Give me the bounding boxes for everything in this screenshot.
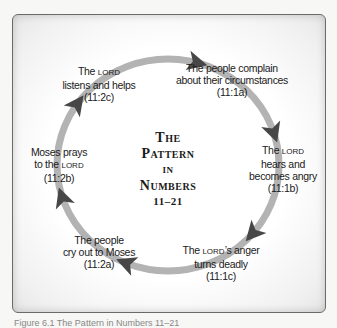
step-prefix: The [183, 244, 203, 256]
title-pattern: Pattern [142, 146, 195, 161]
step-reference: (11:2b) [31, 172, 87, 184]
step-prefix: The [262, 144, 282, 156]
step-line: turns deadly [183, 258, 260, 270]
step-line: The people complain [176, 62, 288, 74]
step-suffix: ’s anger [225, 244, 260, 256]
lord-smallcaps: Lord [202, 247, 224, 256]
step-reference: (11:2a) [63, 258, 135, 270]
step-moses-prays: Moses prays to the Lord (11:2b) [31, 146, 87, 184]
step-line: Moses prays [31, 146, 87, 158]
step-lord-anger-deadly: The Lord’s anger turns deadly (11:1c) [183, 244, 260, 282]
title-numbers: Numbers [140, 178, 196, 193]
lord-smallcaps: Lord [98, 68, 120, 77]
step-line: becomes angry [249, 170, 317, 182]
title-range: 11–21 [153, 195, 182, 207]
step-line: about their circumstances [176, 74, 288, 86]
step-people-cry-out: The people cry out to Moses (11:2a) [63, 234, 135, 270]
title-the: The [155, 130, 180, 145]
step-reference: (11:1c) [183, 270, 260, 282]
title-in: in [162, 165, 173, 175]
step-reference: (11:1b) [249, 182, 317, 194]
step-prefix: to the [34, 158, 61, 170]
step-reference: (11:2c) [62, 91, 135, 103]
step-people-complain: The people complain about their circumst… [176, 62, 288, 98]
step-lord-listens-helps: The Lord listens and helps (11:2c) [62, 65, 135, 103]
figure-caption: Figure 6.1 The Pattern in Numbers 11–21 [14, 318, 179, 328]
step-line: listens and helps [62, 79, 135, 91]
step-line: hears and [249, 158, 317, 170]
lord-smallcaps: Lord [282, 147, 304, 156]
step-line: The people [63, 234, 135, 246]
step-prefix: The [78, 65, 98, 77]
step-line: cry out to Moses [63, 246, 135, 258]
center-title: The Pattern in Numbers 11–21 [140, 130, 196, 209]
lord-smallcaps: Lord [61, 161, 83, 170]
step-reference: (11:1a) [176, 86, 288, 98]
step-lord-hears-angry: The Lord hears and becomes angry (11:1b) [249, 144, 317, 194]
